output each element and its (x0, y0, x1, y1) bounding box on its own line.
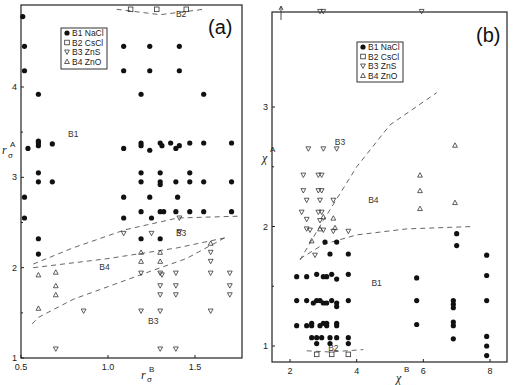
data-point (301, 173, 306, 177)
data-point (306, 147, 311, 151)
y-tick-label: 4 (12, 82, 17, 92)
x-tick-label: 8 (487, 366, 492, 376)
data-point (173, 293, 178, 297)
data-point (334, 323, 339, 328)
data-point (304, 198, 309, 202)
data-point (175, 195, 180, 200)
legend-label: B4 ZnO (72, 57, 102, 67)
region-label: B2 (328, 343, 339, 353)
data-point (314, 341, 319, 346)
data-point (121, 215, 126, 220)
data-point (229, 140, 234, 145)
data-point (201, 209, 206, 214)
data-point (451, 323, 456, 328)
panel-b-region-labels: B3B4B1B2 (328, 137, 382, 353)
data-point (36, 236, 41, 241)
chart-canvas: 0.51.01.51234 B2B1B3B4B3 (a) rσA rσB B1 … (0, 0, 517, 385)
y-tick-label: 3 (12, 172, 17, 182)
data-point (147, 44, 152, 49)
legend-marker (360, 44, 365, 49)
data-point (53, 347, 58, 351)
data-point (484, 334, 489, 339)
data-point (314, 352, 319, 357)
data-point (346, 298, 351, 303)
data-point (168, 140, 173, 145)
data-point (177, 68, 182, 73)
data-point (187, 179, 192, 184)
data-point (36, 179, 41, 184)
svg-text:σ: σ (147, 375, 152, 384)
data-point (154, 7, 159, 12)
svg-text:r: r (141, 368, 146, 382)
region-label: B3 (335, 137, 346, 147)
data-point (201, 179, 206, 184)
legend-label: B2 CsCl (72, 38, 103, 48)
legend-label: B4 ZnO (368, 71, 398, 81)
data-point (227, 271, 232, 275)
panel-a-xlabel: rσB (141, 365, 154, 384)
data-point (324, 274, 329, 279)
data-point (322, 239, 327, 244)
data-point (208, 241, 213, 245)
data-point (158, 259, 163, 263)
region-label: B2 (176, 9, 187, 19)
data-point (484, 343, 489, 348)
data-point (334, 304, 339, 309)
data-point (173, 271, 178, 275)
region-label: B1 (371, 278, 382, 288)
data-point (147, 195, 152, 200)
y-tick-label: 1 (263, 341, 268, 351)
panel-b-xlabel: χB (395, 365, 409, 385)
data-point (208, 271, 213, 275)
region-label: B4 (99, 262, 110, 272)
data-point (314, 272, 319, 277)
data-point (81, 309, 86, 313)
region-label: B1 (68, 129, 79, 139)
data-point (147, 148, 152, 153)
data-point (177, 44, 182, 49)
data-point (324, 300, 329, 305)
data-point (329, 272, 334, 277)
svg-text:A: A (10, 140, 16, 149)
legend-label: B2 CsCl (368, 52, 399, 62)
svg-text:B: B (404, 365, 409, 374)
data-point (121, 231, 126, 235)
data-point (309, 335, 314, 340)
data-point (334, 239, 339, 244)
x-tick-label: 2 (287, 366, 292, 376)
data-point (147, 68, 152, 73)
data-point (158, 170, 163, 175)
data-point (453, 200, 458, 204)
data-point (36, 306, 41, 310)
data-point (294, 323, 299, 328)
data-point (299, 210, 304, 214)
x-tick-label: 1.5 (189, 362, 202, 372)
data-point (187, 209, 192, 214)
data-point (346, 272, 351, 277)
svg-text:B: B (149, 365, 154, 374)
data-point (53, 283, 58, 287)
data-point (20, 14, 25, 19)
data-point (309, 323, 314, 328)
data-point (346, 352, 351, 357)
data-point (334, 276, 339, 281)
data-point (177, 143, 182, 148)
data-point (121, 68, 126, 73)
svg-text:χ: χ (261, 151, 268, 165)
region-label: B4 (368, 195, 379, 205)
x-tick-label: 1.0 (102, 362, 115, 372)
series-b3 (53, 216, 232, 351)
data-point (139, 309, 144, 313)
data-point (319, 335, 324, 340)
data-point (451, 336, 456, 341)
data-point (53, 292, 58, 296)
legend-label: B1 NaCl (368, 42, 400, 52)
data-point (138, 143, 143, 148)
y-tick-label: 3 (263, 102, 268, 112)
legend-marker (64, 30, 69, 35)
data-point (314, 335, 319, 340)
data-point (304, 217, 309, 221)
data-point (121, 195, 126, 200)
phase-boundary (300, 93, 437, 260)
y-tick-label: 2 (263, 222, 268, 232)
